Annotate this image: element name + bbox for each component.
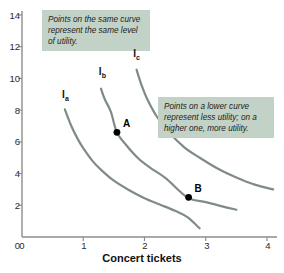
curve-label-ib: Ib — [99, 66, 106, 79]
x-tick-label: 3 — [198, 240, 216, 251]
data-point-b — [185, 194, 192, 201]
curve-label-ia: Ia — [62, 89, 69, 102]
y-tick-label: 6 — [2, 136, 20, 147]
x-tick-label: 0 — [13, 240, 31, 251]
y-tick-label: 12 — [2, 41, 20, 52]
x-tick-label: 2 — [136, 240, 154, 251]
x-axis-title: Concert tickets — [0, 252, 284, 264]
point-label-b: B — [195, 183, 202, 194]
x-tick-label: 4 — [259, 240, 277, 251]
callout-lower-curve: Points on a lower curve represent less u… — [158, 97, 274, 138]
y-tick-label: 2 — [2, 200, 20, 211]
x-tick-label: 1 — [75, 240, 93, 251]
y-tick-label: 10 — [2, 73, 20, 84]
y-tick-label: 4 — [2, 168, 20, 179]
point-label-a: A — [123, 118, 130, 129]
data-point-a — [114, 129, 121, 136]
y-tick-label: 14 — [2, 10, 20, 21]
callout-same-curve: Points on the same curve represent the s… — [42, 10, 150, 51]
curve-label-ic: Ic — [133, 48, 140, 61]
y-tick-label: 8 — [2, 105, 20, 116]
indifference-curve-chart: 14 12 10 8 6 4 2 0 0 1 2 3 4 Concert tic… — [0, 0, 284, 273]
